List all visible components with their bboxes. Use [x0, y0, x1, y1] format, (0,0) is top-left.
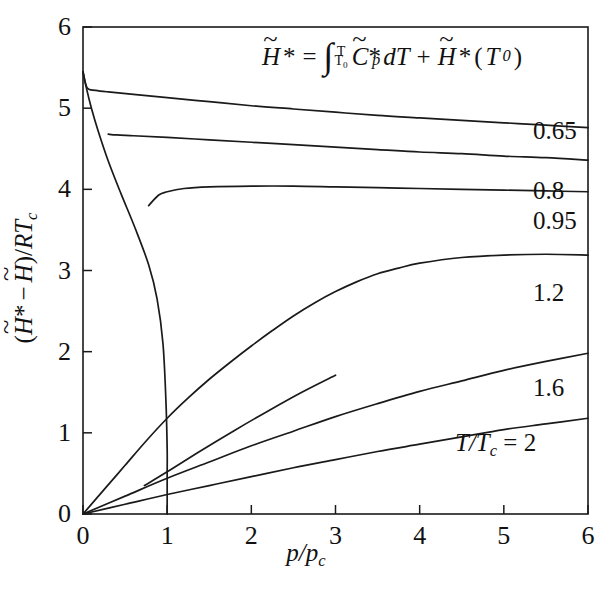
y-axis-minus: − [10, 286, 37, 300]
equation-paren-open: ( [474, 44, 482, 69]
integral-lower-limit: T0 [335, 54, 348, 70]
y-tick-label-2: 2 [58, 339, 71, 365]
y-tick-label-5: 5 [58, 95, 71, 121]
curve-saturation-locus [83, 72, 167, 514]
y-axis-title: (H*−H)/RTc [11, 213, 41, 344]
curve-label-t-tc-2: T/Tc = 2 [455, 430, 536, 460]
y-tick-label-4: 4 [58, 176, 71, 202]
x-tick-label-4: 4 [413, 523, 426, 549]
curve-label-0-95: 0.95 [533, 208, 577, 233]
x-tick-label-1: 1 [161, 523, 174, 549]
y-axis-paren-open: ( [10, 335, 37, 343]
x-axis-ticks [83, 505, 588, 514]
integral-limits: T T0 [335, 45, 348, 70]
y-axis-h-tilde-2: H [11, 264, 36, 282]
curve-label-0-65: 0.65 [533, 118, 577, 143]
y-axis-paren-close: ) [10, 256, 37, 264]
y-tick-label-1: 1 [58, 420, 71, 446]
equation-c-tilde: C [352, 44, 369, 69]
y-axis-sub-c: c [22, 213, 41, 220]
y-tick-label-6: 6 [58, 14, 71, 40]
y-axis-h-tilde-1: H [11, 317, 36, 335]
y-axis-ticks [83, 27, 92, 514]
curve-vapor-branch-lower [144, 375, 335, 485]
equation-c-group: C*p [352, 44, 380, 69]
y-tick-label-0: 0 [58, 501, 71, 527]
integral-sign: ∫ [324, 42, 334, 71]
y-axis-t: T [10, 220, 37, 234]
equation-T0: T [486, 44, 500, 69]
x-tick-label-3: 3 [329, 523, 342, 549]
curve-0-65 [83, 72, 588, 128]
equation-h-tilde-rhs: H [438, 44, 456, 69]
plot-canvas [0, 0, 613, 590]
integral-lower-sub: 0 [343, 60, 348, 70]
chart-figure: 0123456 0123456 0.650.80.951.21.6T/Tc = … [0, 0, 613, 590]
equation-integral-block: ∫ T T0 [324, 42, 349, 71]
x-tick-label-0: 0 [77, 523, 90, 549]
x-axis-p2: p [306, 539, 319, 566]
x-axis-title: p/pc [286, 540, 325, 570]
y-axis-star-1: * [10, 305, 37, 318]
equation-annotation: H* = ∫ T T0 C*p dT + H*(T0) [262, 42, 522, 71]
equation-T0-sub: 0 [502, 48, 510, 65]
x-axis-sub-c: c [318, 551, 325, 570]
x-tick-label-5: 5 [497, 523, 510, 549]
curve-1-2 [83, 254, 588, 514]
x-axis-p: p [286, 539, 299, 566]
equation-star-lhs: * [283, 44, 296, 69]
y-tick-label-3: 3 [58, 258, 71, 284]
equation-plus: + [417, 44, 431, 69]
y-axis-slash: / [10, 249, 37, 256]
integral-lower-T: T [335, 53, 344, 68]
curve-label-0-8: 0.8 [533, 178, 564, 203]
x-tick-label-6: 6 [582, 523, 595, 549]
x-tick-label-2: 2 [245, 523, 258, 549]
curve-label-1-6: 1.6 [533, 375, 564, 400]
y-axis-r: R [10, 234, 37, 249]
curve-0-95 [149, 186, 588, 206]
curve-label-1-2: 1.2 [533, 280, 564, 305]
equation-star-rhs: * [459, 44, 472, 69]
equation-paren-close: ) [514, 44, 522, 69]
equation-h-tilde-lhs: H [262, 44, 280, 69]
equation-dT: dT [383, 44, 409, 69]
equation-equals: = [303, 44, 317, 69]
equation-c-sub-p: p [372, 52, 380, 69]
curve-0-8 [108, 134, 588, 160]
